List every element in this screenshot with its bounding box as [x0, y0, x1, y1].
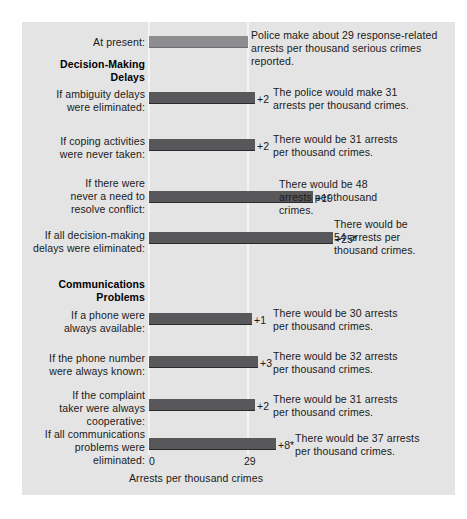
chart-figure: At present: Police make about 29 respons… — [0, 0, 467, 519]
row-label-line: If the phone number — [22, 352, 145, 365]
row-description: Police make about 29 response-related ar… — [251, 29, 451, 68]
row-label: If a phone were always available: — [22, 309, 145, 335]
description-line: arrests per thousand serious crimes — [251, 42, 451, 55]
section-heading-line: Problems — [22, 291, 145, 304]
chart-panel: At present: Police make about 29 respons… — [22, 22, 455, 495]
row-label-line: At present: — [22, 36, 145, 49]
row-label-line: resolve conflict: — [22, 203, 145, 216]
description-line: crimes. — [279, 204, 455, 217]
description-line: There would be 37 arrests — [295, 432, 455, 445]
bar-phone-number-known — [149, 356, 258, 368]
delta-label: +8* — [278, 439, 294, 451]
row-label-line: problems were — [22, 441, 145, 454]
delta-label: +2 — [257, 400, 269, 412]
delta-label: +2 — [257, 140, 269, 152]
description-line: per thousand crimes. — [273, 406, 451, 419]
bar-at-present — [149, 36, 248, 48]
axis-title: Arrests per thousand crimes — [129, 472, 263, 485]
delta-label: +3 — [260, 357, 272, 369]
bar-ambiguity-delays — [149, 92, 255, 104]
row-label-line: cooperative: — [22, 415, 145, 428]
description-line: There would be 31 arrests — [273, 133, 451, 146]
row-label-line: If all communications — [22, 428, 145, 441]
description-line: There would be — [334, 218, 454, 231]
description-line: per thousand crimes. — [273, 320, 451, 333]
row-label: If the complaint taker were always coope… — [22, 389, 145, 428]
bar-all-communications-problems — [149, 438, 276, 450]
description-line: per thousand crimes. — [273, 146, 451, 159]
description-line: Police make about 29 response-related — [251, 29, 451, 42]
bar-phone-available — [149, 313, 252, 325]
description-line: The police would make 31 — [273, 86, 451, 99]
section-heading-text: Decision-Making Delays — [22, 58, 145, 84]
row-label: If all decision-making delays were elimi… — [22, 229, 145, 255]
description-line: There would be 48 — [279, 178, 455, 191]
row-label-line: If the complaint — [22, 389, 145, 402]
description-line: 54 arrests per — [334, 231, 454, 244]
description-line: arrests per thousand crimes. — [273, 99, 451, 112]
row-label-line: If all decision-making — [22, 229, 145, 242]
row-label-line: delays were eliminated: — [22, 242, 145, 255]
description-line: thousand crimes. — [334, 244, 454, 257]
axis-tick-0: 0 — [149, 455, 155, 467]
row-description: There would be 31 arrests per thousand c… — [273, 133, 451, 159]
row-label-line: never a need to — [22, 190, 145, 203]
row-label-line: were eliminated: — [22, 101, 145, 114]
row-label: If the phone number were always known: — [22, 352, 145, 378]
axis-tick-29: 29 — [244, 455, 256, 467]
delta-label: +2 — [257, 93, 269, 105]
section-heading-line: Delays — [22, 71, 145, 84]
row-description: There would be 30 arrests per thousand c… — [273, 307, 451, 333]
row-label-line: were never taken: — [22, 148, 145, 161]
row-description: There would be 31 arrests per thousand c… — [273, 393, 451, 419]
row-label-line: If ambiguity delays — [22, 88, 145, 101]
row-label-line: If a phone were — [22, 309, 145, 322]
row-label-line: taker were always — [22, 402, 145, 415]
description-line: arrests per thousand — [279, 191, 455, 204]
bar-all-decision-making-delays — [149, 232, 333, 244]
row-label-line: always available: — [22, 322, 145, 335]
row-label: If ambiguity delays were eliminated: — [22, 88, 145, 114]
row-description: There would be 48 arrests per thousand c… — [279, 178, 455, 217]
description-line: There would be 30 arrests — [273, 307, 451, 320]
section-heading-line: Decision-Making — [22, 58, 145, 71]
row-description: There would be 32 arrests per thousand c… — [273, 350, 451, 376]
row-label-line: If there were — [22, 177, 145, 190]
section-heading-text: Communications Problems — [22, 278, 145, 304]
description-line: per thousand crimes. — [273, 363, 451, 376]
row-label: If there were never a need to resolve co… — [22, 177, 145, 216]
row-label: At present: — [22, 36, 145, 49]
row-description: The police would make 31 arrests per tho… — [273, 86, 451, 112]
description-line: There would be 32 arrests — [273, 350, 451, 363]
bar-coping-activities — [149, 139, 255, 151]
row-label: If coping activities were never taken: — [22, 135, 145, 161]
delta-label: +1 — [254, 314, 266, 326]
description-line: There would be 31 arrests — [273, 393, 451, 406]
row-label-line: If coping activities — [22, 135, 145, 148]
row-description: There would be 54 arrests per thousand c… — [334, 218, 454, 257]
bar-complaint-taker — [149, 399, 255, 411]
axis-tick-labels: 0 29 — [22, 455, 455, 471]
row-label-line: were always known: — [22, 365, 145, 378]
section-heading-line: Communications — [22, 278, 145, 291]
description-line: reported. — [251, 55, 451, 68]
